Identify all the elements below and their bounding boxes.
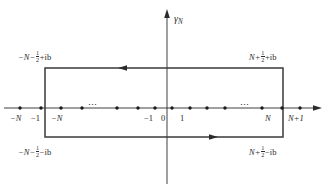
pole-marker <box>59 106 62 109</box>
axis-tick-label-one: 1 <box>180 114 184 123</box>
real-axis <box>4 105 322 111</box>
corner-label-top-right-prefix: N+ <box>249 52 260 62</box>
pole-marker <box>298 106 301 109</box>
axis-tick-label-zero: 0 <box>161 114 165 123</box>
contour-diagram-canvas <box>0 0 327 189</box>
pole-marker <box>136 106 139 109</box>
corner-label-bottom-left: −N−12−ib <box>18 145 51 159</box>
corner-label-top-left-suffix: +ib <box>40 52 51 62</box>
imaginary-axis <box>164 9 170 184</box>
axis-tick-label-minus-n: −N <box>51 114 62 123</box>
imaginary-axis-label: γN <box>174 14 183 26</box>
axis-ellipsis-left: ⋯ <box>88 101 98 110</box>
corner-label-top-right-suffix: +ib <box>265 52 276 62</box>
axis-tick-label-n: N <box>265 114 271 123</box>
corner-label-bottom-right: N+12−ib <box>249 145 276 159</box>
axis-tick-label-n-plus-1: N+1 <box>288 114 304 123</box>
corner-label-bottom-left-prefix: −N− <box>18 147 35 157</box>
corner-label-top-right: N+12+ib <box>249 50 276 64</box>
pole-marker <box>80 106 83 109</box>
contour-bottom-direction-arrow-icon <box>209 134 218 140</box>
pole-marker <box>39 106 42 109</box>
pole-marker <box>18 106 21 109</box>
corner-label-bottom-left-suffix: −ib <box>40 147 51 157</box>
real-axis-arrowhead-icon <box>313 105 322 111</box>
corner-label-bottom-right-prefix: N+ <box>249 147 260 157</box>
corner-label-top-left-prefix: −N− <box>18 52 35 62</box>
axis-tick-label-minus-1: −1 <box>144 114 153 123</box>
corner-label-top-left: −N−12+ib <box>18 50 51 64</box>
pole-marker <box>205 106 208 109</box>
pole-marker <box>170 106 173 109</box>
pole-marker <box>223 106 226 109</box>
pole-marker <box>260 106 263 109</box>
pole-marker <box>188 106 191 109</box>
contour-top-direction-arrow-icon <box>118 65 127 71</box>
contour-diagram: γN −N−12+ib N+12+ib −N−12−ib N+12−ib −N … <box>0 0 327 189</box>
imaginary-axis-label-subscript: N <box>178 18 183 26</box>
imaginary-axis-arrowhead-icon <box>164 9 170 18</box>
corner-label-bottom-right-suffix: −ib <box>265 147 276 157</box>
axis-tick-label-minus-n-minus-1: −N <box>10 114 21 123</box>
pole-marker <box>115 106 118 109</box>
pole-marker <box>153 106 156 109</box>
axis-tick-label-minus-1-left: −1 <box>31 114 40 123</box>
pole-marker <box>280 106 283 109</box>
axis-ellipsis-right: ⋯ <box>240 101 250 110</box>
